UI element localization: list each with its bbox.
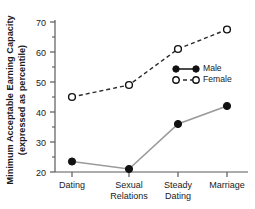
line-chart: Minimum Acceptable Earning Capacity (exp… [0,0,255,209]
series-layer [68,26,230,172]
chart-figure: Minimum Acceptable Earning Capacity (exp… [0,0,255,209]
y-axis-title-line2: (expressed as percentile) [17,45,27,155]
y-tick-70: 70 [36,18,55,28]
data-point-male-3 [223,102,230,109]
data-point-female-2 [175,46,182,53]
data-point-female-1 [126,82,133,89]
data-point-female-0 [69,94,76,101]
y-axis-ticks: 70 60 50 40 30 20 [36,18,55,178]
x-label-marriage-line1: Marriage [209,180,245,190]
y-tick-60: 60 [36,48,55,58]
y-tick-20: 20 [36,168,55,178]
legend-marker-female [173,77,179,83]
x-axis-labels: Dating Sexual Relations Steady Dating Ma… [59,180,245,201]
y-tick-label-30: 30 [36,138,46,148]
y-tick-label-40: 40 [36,108,46,118]
legend-entry-female: Female [173,74,232,84]
y-tick-label-20: 20 [36,168,46,178]
legend-label-male: Male [203,63,222,73]
y-tick-30: 30 [36,138,55,148]
x-label-sexual-relations-line2: Relations [110,191,148,201]
series-male [68,102,230,172]
data-point-male-2 [174,120,181,127]
legend-label-female: Female [203,74,232,84]
x-axis-ticks [72,172,227,177]
legend-marker-male [173,66,179,72]
y-tick-label-60: 60 [36,48,46,58]
legend-entry-male: Male [173,63,222,73]
data-point-male-1 [125,165,132,172]
x-label-dating-line1: Dating [59,180,85,190]
y-tick-50: 50 [36,78,55,88]
data-point-female-3 [224,26,231,33]
x-label-steady-dating-line2: Dating [165,191,191,201]
y-tick-label-70: 70 [36,18,46,28]
y-axis-title-line1: Minimum Acceptable Earning Capacity [5,15,15,185]
y-tick-40: 40 [36,108,55,118]
y-tick-label-50: 50 [36,78,46,88]
series-line-male [72,106,227,169]
x-label-sexual-relations-line1: Sexual [115,180,143,190]
x-label-steady-dating-line1: Steady [164,180,193,190]
y-axis-title: Minimum Acceptable Earning Capacity (exp… [5,15,27,185]
legend: Male Female [173,63,232,84]
data-point-male-0 [68,158,75,165]
